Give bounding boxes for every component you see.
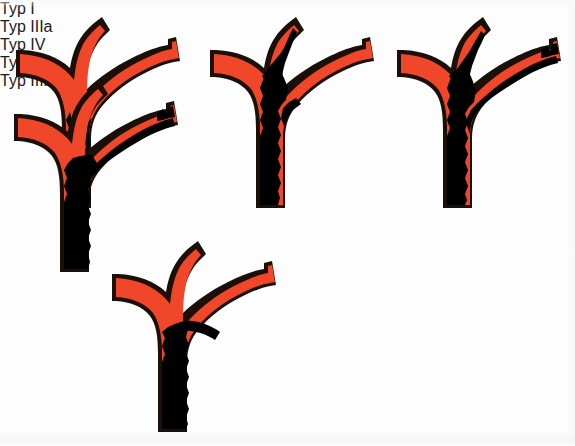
vessel-diagram-typ-4	[383, 8, 573, 213]
tumor-fill-trunk	[162, 324, 189, 429]
figure-canvas: Typ I Typ IIIa	[0, 0, 575, 446]
diagram-panel-typ-3b	[0, 72, 190, 277]
diagram-panel-typ-4	[383, 8, 573, 213]
vessel-shape-group	[210, 17, 374, 208]
vessel-outline	[210, 17, 374, 208]
diagram-panel-typ-3a	[196, 8, 386, 213]
vessel-diagram-typ-3b	[0, 72, 190, 277]
vessel-shape-group	[14, 81, 178, 272]
vessel-outline	[14, 81, 178, 272]
vessel-diagram-typ-3a	[196, 8, 386, 213]
tumor-fill-trunk	[64, 156, 91, 269]
